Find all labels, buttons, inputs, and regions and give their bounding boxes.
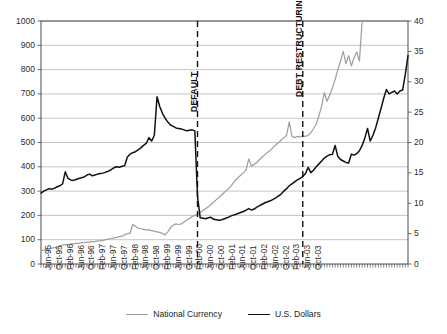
legend-item-national-currency: National Currency <box>126 309 222 319</box>
legend-label-national-currency: National Currency <box>153 309 222 319</box>
chart-plot-area <box>0 0 447 334</box>
x-axis-tick-label: Feb-96 <box>66 244 75 270</box>
x-axis-tick-label: Jun-00 <box>206 245 215 270</box>
x-axis-tick-label: Oct-95 <box>55 245 64 270</box>
y-axis-left-tick-label: 900 <box>9 40 35 50</box>
legend-label-us-dollars: U.S. Dollars <box>275 309 321 319</box>
y-axis-right-tick-label: 0 <box>414 259 440 269</box>
chart-figure: 0100200300400500600700800900100005101520… <box>0 0 447 334</box>
x-axis-tick-label: Jun-98 <box>141 245 150 270</box>
x-axis-tick-label: Oct-01 <box>249 245 258 270</box>
x-axis-tick-label: Jun-99 <box>174 245 183 270</box>
y-axis-left-tick-label: 800 <box>9 64 35 74</box>
y-axis-right-tick-label: 20 <box>414 137 440 147</box>
x-axis-tick-label: Feb-00 <box>195 244 204 270</box>
x-axis-tick-label: Oct-99 <box>185 245 194 270</box>
y-axis-right-tick-label: 30 <box>414 76 440 86</box>
y-axis-left-tick-label: 100 <box>9 234 35 244</box>
y-axis-right-tick-label: 15 <box>414 167 440 177</box>
x-axis-tick-label: Oct-00 <box>217 245 226 270</box>
y-axis-right-tick-label: 5 <box>414 228 440 238</box>
x-axis-tick-label: Feb-98 <box>131 244 140 270</box>
x-axis-tick-label: Oct-03 <box>314 245 323 270</box>
chart-legend: National Currency U.S. Dollars <box>0 309 447 319</box>
chart-annotation-debt-restructuring: DEBT RESTRUCTURING <box>294 0 304 97</box>
x-axis-tick-label: Oct-98 <box>152 245 161 270</box>
y-axis-left-tick-label: 500 <box>9 137 35 147</box>
y-axis-left-tick-label: 300 <box>9 186 35 196</box>
x-axis-tick-label: Feb-01 <box>228 244 237 270</box>
x-axis-tick-label: Jun-03 <box>303 245 312 270</box>
y-axis-right-tick-label: 40 <box>414 16 440 26</box>
y-axis-right-tick-label: 10 <box>414 198 440 208</box>
y-axis-right-tick-label: 35 <box>414 46 440 56</box>
y-axis-left-tick-label: 400 <box>9 161 35 171</box>
x-axis-tick-label: Feb-03 <box>292 244 301 270</box>
x-axis-tick-label: Jun-02 <box>271 245 280 270</box>
x-axis-tick-label: Oct-96 <box>87 245 96 270</box>
x-axis-tick-label: Feb-99 <box>163 244 172 270</box>
y-axis-right-tick-label: 25 <box>414 107 440 117</box>
y-axis-left-tick-label: 0 <box>9 259 35 269</box>
y-axis-left-tick-label: 200 <box>9 210 35 220</box>
y-axis-left-tick-label: 600 <box>9 113 35 123</box>
x-axis-tick-label: Oct-97 <box>120 245 129 270</box>
x-axis-tick-label: Jun-96 <box>77 245 86 270</box>
y-axis-left-tick-label: 1000 <box>9 16 35 26</box>
legend-swatch-us-dollars <box>248 314 270 315</box>
x-axis-tick-label: Oct-02 <box>282 245 291 270</box>
chart-annotation-default: DEFAULT <box>189 72 199 112</box>
x-axis-tick-label: Feb-02 <box>260 244 269 270</box>
legend-item-us-dollars: U.S. Dollars <box>248 309 321 319</box>
y-axis-left-tick-label: 700 <box>9 88 35 98</box>
x-axis-tick-label: Feb-97 <box>98 244 107 270</box>
legend-swatch-national-currency <box>126 314 148 315</box>
x-axis-tick-label: Jun-95 <box>44 245 53 270</box>
x-axis-tick-label: Jun-01 <box>238 245 247 270</box>
x-axis-tick-label: Jun-97 <box>109 245 118 270</box>
